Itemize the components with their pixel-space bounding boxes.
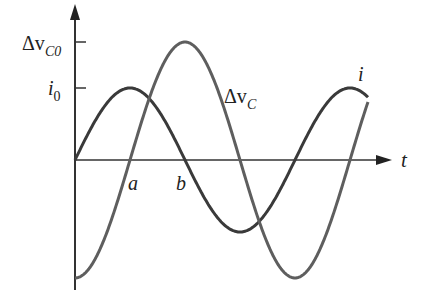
y-axis-arrow-icon — [70, 4, 80, 20]
x-axis-arrow-icon — [376, 155, 392, 165]
label-dvc-curve: ΔvC — [224, 85, 257, 112]
label-dvc0: ΔvC0 — [22, 32, 61, 59]
label-t: t — [401, 148, 408, 172]
label-a: a — [128, 172, 138, 194]
label-b: b — [176, 172, 186, 194]
label-i-curve: i — [358, 63, 364, 85]
label-i0: i0 — [48, 77, 61, 104]
waveform-diagram: ΔvC0 i0 t a b i ΔvC — [0, 0, 430, 301]
